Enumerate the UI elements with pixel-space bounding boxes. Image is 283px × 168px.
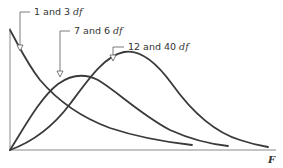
x-axis-label: F	[267, 154, 276, 165]
callout-12-and-40-df: 12 and 40 df	[110, 41, 190, 61]
series-label-7-and-6-df: 7 and 6 df	[74, 25, 124, 36]
curve-7-and-6-df	[10, 76, 228, 150]
series-label-12-and-40-df: 12 and 40 df	[128, 41, 190, 52]
leader-line	[20, 12, 30, 46]
callout-7-and-6-df: 7 and 6 df	[57, 25, 124, 77]
leader-line	[60, 31, 70, 72]
arrowhead-icon	[17, 45, 23, 51]
series-label-1-and-3-df: 1 and 3 df	[34, 6, 84, 17]
arrowhead-icon	[57, 71, 63, 77]
f-distribution-chart: 1 and 3 df 7 and 6 df 12 and 40 df F	[0, 0, 283, 168]
